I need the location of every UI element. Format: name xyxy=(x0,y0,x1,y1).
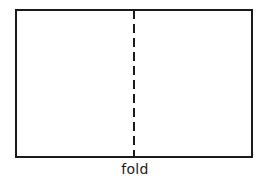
fold-diagram xyxy=(0,0,264,187)
fold-label: fold xyxy=(118,161,152,177)
